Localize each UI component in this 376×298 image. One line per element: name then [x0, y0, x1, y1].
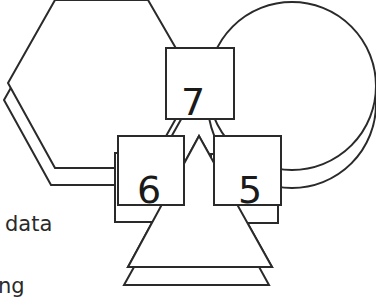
box-5-label: 5 [238, 168, 262, 212]
text-fragment-data: data [5, 212, 52, 236]
text-fragment-ng: ng [0, 274, 25, 298]
box-6-label: 6 [137, 168, 161, 212]
box-7-label: 7 [181, 80, 205, 124]
box-7: 7 [166, 48, 234, 124]
box-6: 6 [118, 136, 184, 212]
box-5: 5 [214, 136, 281, 212]
